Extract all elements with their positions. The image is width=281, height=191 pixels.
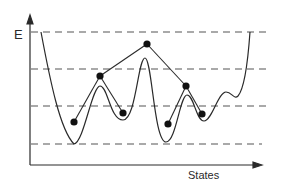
tree-edge: [168, 86, 186, 124]
x-axis-label: States: [188, 169, 219, 181]
tree-edge: [186, 86, 202, 114]
saddle-dot: [96, 72, 103, 79]
dashed-levels: [31, 32, 266, 144]
energy-landscape-diagram: E States: [0, 0, 281, 191]
y-axis-label: E: [14, 27, 23, 42]
minimum-dot: [164, 120, 171, 127]
saddle-dot: [182, 82, 189, 89]
tree-edge: [147, 44, 186, 86]
tree-edges: [74, 44, 202, 124]
minimum-dot: [70, 118, 77, 125]
diagram-canvas: [0, 0, 281, 191]
minimum-dot: [119, 109, 126, 116]
x-axis-arrow-icon: [253, 162, 262, 168]
y-axis-arrow-icon: [27, 15, 33, 24]
minimum-dot: [198, 110, 205, 117]
state-dots: [70, 40, 205, 127]
energy-curve: [41, 32, 250, 144]
top-dot: [143, 40, 150, 47]
